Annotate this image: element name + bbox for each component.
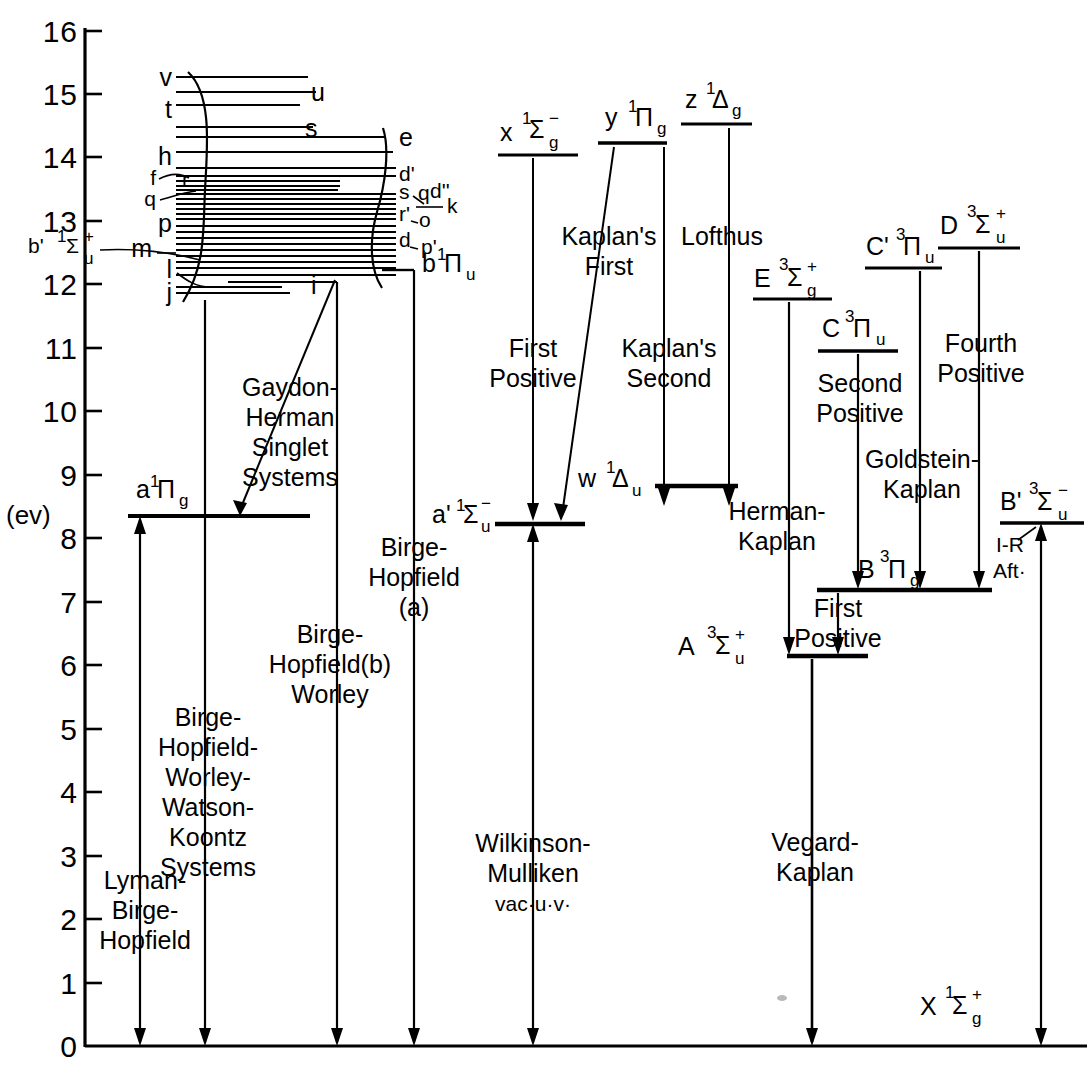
arrowhead	[527, 503, 539, 521]
system-line: Watson-	[162, 793, 254, 821]
cluster-label-v: v	[160, 63, 173, 91]
system-line: Kaplan	[738, 527, 816, 555]
state-label-y-1pi-g: y 1 Π g	[605, 97, 666, 138]
state-subscript: u	[84, 249, 93, 268]
cluster-label-k: k	[447, 194, 458, 217]
system-line: Systems	[242, 463, 338, 491]
system-line: Gaydon-	[242, 373, 338, 401]
state-base: C'	[866, 232, 889, 260]
state-greek: Δ	[712, 85, 729, 113]
system-line: Goldstein-	[865, 445, 979, 473]
state-label-Cprime-3pi-u: C' 3 Π u	[866, 225, 934, 267]
system-line: Lofthus	[681, 222, 763, 250]
axis-tick-label: 10	[43, 395, 78, 428]
state-greek: Σ	[529, 115, 544, 143]
state-right-superscript: +	[807, 257, 817, 276]
system-label-vegard-kaplan: Vegard- Kaplan	[771, 828, 859, 886]
axis-tick-label: 3	[60, 840, 78, 873]
state-greek: Σ	[463, 500, 478, 528]
state-subscript: u	[466, 265, 475, 284]
state-right-superscript: −	[549, 109, 559, 128]
system-line: I-R	[996, 533, 1024, 556]
system-line: Kaplan	[883, 475, 961, 503]
state-base: E	[754, 264, 771, 292]
state-subscript: u	[632, 481, 641, 500]
state-label-X-1sigma-g: X 1 Σ + g	[920, 983, 982, 1028]
arrowhead	[331, 1028, 343, 1046]
system-line: Positive	[794, 624, 882, 652]
state-subscript: u	[481, 517, 490, 536]
transition-birge-hopfield-worley-watson-koontz	[199, 300, 211, 1046]
axis-tick-label: 9	[60, 459, 78, 492]
system-line: Singlet	[252, 433, 328, 461]
arrowhead-up	[1035, 523, 1047, 541]
state-base: y	[605, 103, 618, 131]
state-label-Bprime-3sigma-u: B' 3 Σ − u	[1000, 479, 1068, 524]
state-right-superscript: +	[84, 227, 94, 246]
system-line: First	[509, 334, 558, 362]
arrowhead	[783, 637, 795, 655]
cluster-label-o: o	[419, 208, 431, 231]
system-line: Herman-	[728, 497, 825, 525]
system-line: Wilkinson-	[475, 829, 590, 857]
system-label-birge-hopfield-b-worley: Birge- Hopfield(b) Worley	[269, 620, 391, 708]
system-line: Herman	[246, 403, 335, 431]
state-base: a'	[432, 500, 451, 528]
transition-goldstein-kaplan	[914, 271, 926, 589]
state-base: a	[136, 475, 150, 503]
diagram-canvas: 16 15 14 13 12 11 10 9 8 7 6 5 4 3 2 1 0…	[0, 0, 1091, 1076]
arrowhead	[134, 1028, 146, 1046]
system-line: Systems	[160, 853, 256, 881]
arrowhead-up	[527, 524, 539, 542]
state-greek: Σ	[787, 263, 802, 291]
cluster-label-m: m	[131, 234, 152, 262]
state-greek: Σ	[952, 991, 967, 1019]
arrowhead	[233, 500, 247, 516]
axis-tick-label: 4	[60, 776, 78, 809]
state-base: b	[422, 249, 436, 277]
transition-lofthus	[723, 128, 735, 506]
state-label-B-3pi-g: B 3 Π g	[858, 547, 919, 590]
system-line: Aft·	[993, 559, 1026, 582]
state-greek: Π	[635, 103, 653, 131]
axis-tick-label: 0	[60, 1030, 78, 1063]
state-subscript: g	[179, 491, 188, 510]
state-greek: Π	[444, 249, 462, 277]
state-label-z-1delta-g: z 1 Δ g	[685, 79, 741, 120]
system-line: vac·u·v·	[495, 892, 571, 915]
system-line: Hopfield	[99, 926, 191, 954]
system-line: Birge-	[381, 533, 448, 561]
transition-fourth-positive	[973, 251, 985, 589]
arrowhead	[973, 571, 985, 589]
cluster-label-q: q	[144, 187, 156, 210]
arrowhead	[199, 1028, 211, 1046]
system-line: Worley	[291, 680, 369, 708]
state-label-b-1pi-u: b 1 Π u	[422, 245, 475, 284]
system-line: (a)	[399, 593, 430, 621]
axis-tick-label: 14	[43, 141, 78, 174]
system-line: Positive	[937, 359, 1025, 387]
state-base: B	[858, 555, 875, 583]
cluster-left-labels: v t h f r q p m l j	[131, 63, 189, 306]
state-base: A	[678, 632, 695, 660]
system-line: Positive	[489, 364, 577, 392]
arrowhead	[658, 488, 670, 506]
system-label-gaydon-herman-singlet: Gaydon- Herman Singlet Systems	[242, 373, 338, 491]
cluster-label-d: d	[399, 228, 411, 251]
state-subscript: g	[972, 1009, 981, 1028]
state-subscript: u	[735, 649, 744, 668]
state-greek: Π	[157, 475, 175, 503]
state-greek: Σ	[1037, 487, 1052, 515]
system-label-birge-hopfield-a: Birge- Hopfield (a)	[368, 533, 460, 621]
state-right-superscript: +	[996, 204, 1006, 223]
cluster-label-s2: s	[399, 180, 410, 203]
system-label-kaplans-second: Kaplan's Second	[621, 334, 716, 392]
state-label-E-3sigma-g: E 3 Σ + g	[754, 255, 817, 300]
state-subscript: g	[549, 133, 558, 152]
state-label-D-3sigma-u: D 3 Σ + u	[940, 202, 1006, 247]
axis-tick-label: 15	[43, 78, 78, 111]
system-line: Mulliken	[487, 859, 579, 887]
arrowhead	[408, 1028, 420, 1046]
axis-tick-label: 16	[43, 15, 78, 48]
system-line: Kaplan	[776, 858, 854, 886]
